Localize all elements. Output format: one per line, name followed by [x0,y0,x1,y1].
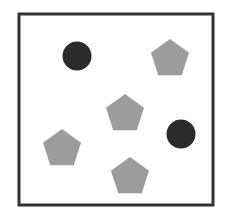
dark-circle-4 [167,120,196,149]
gray-pentagon-3 [106,94,144,130]
shapes-diagram [0,0,225,213]
shapes-group [43,39,196,193]
gray-pentagon-2 [151,39,189,75]
gray-pentagon-5 [43,129,81,165]
gray-pentagon-6 [111,157,149,193]
dark-circle-1 [63,42,92,71]
